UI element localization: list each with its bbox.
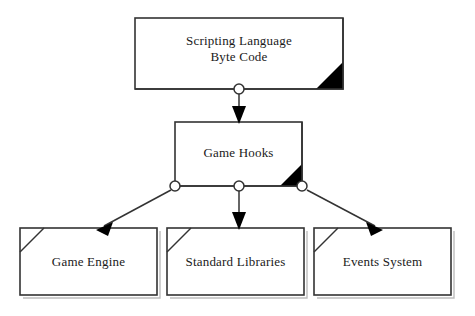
- node-box-game-engine[interactable]: [20, 228, 157, 295]
- connector-game-hooks-to-standard-libraries[interactable]: [232, 190, 246, 230]
- connector-line: [307, 190, 375, 226]
- diagram-canvas: Scripting Language Byte Code Game Hooks …: [0, 0, 475, 316]
- node-scripting-language-byte-code[interactable]: [135, 18, 343, 89]
- node-box-game-hooks[interactable]: [175, 122, 302, 186]
- node-box-standard-libraries[interactable]: [167, 228, 304, 295]
- node-standard-libraries[interactable]: [167, 228, 307, 298]
- diagram-svg: [0, 0, 475, 316]
- node-box-scripting-language-byte-code[interactable]: [135, 18, 343, 89]
- node-box-events-system[interactable]: [314, 228, 451, 295]
- connector-line: [104, 190, 171, 226]
- port-game-hooks-right[interactable]: [297, 181, 307, 191]
- node-game-hooks[interactable]: [175, 122, 302, 186]
- connector-byte-code-to-game-hooks[interactable]: [232, 93, 246, 124]
- node-game-engine[interactable]: [20, 228, 160, 298]
- node-events-system[interactable]: [314, 228, 454, 298]
- port-game-hooks-left[interactable]: [170, 181, 180, 191]
- port-byte-code-out[interactable]: [234, 84, 244, 94]
- port-game-hooks-center[interactable]: [234, 181, 244, 191]
